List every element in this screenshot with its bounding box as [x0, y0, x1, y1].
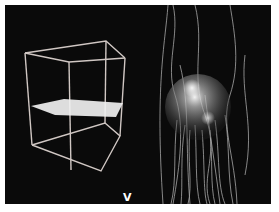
panel-label: V	[123, 192, 132, 204]
visualization	[5, 5, 271, 204]
figure-frame: V	[5, 5, 271, 204]
slice-plane	[31, 99, 123, 117]
